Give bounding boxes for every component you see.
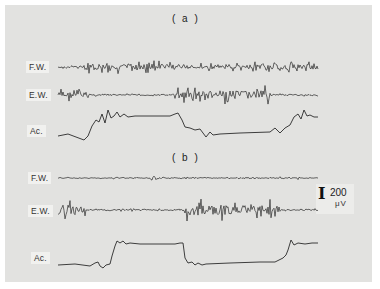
- trace-a-fw: [58, 61, 318, 74]
- trace-b-fw: [58, 176, 318, 180]
- trace-b-ac: [58, 240, 318, 268]
- trace-a-ac: [58, 110, 318, 140]
- trace-a-ew: [58, 86, 318, 105]
- traces-plot: [0, 0, 380, 289]
- trace-b-ew: [58, 199, 318, 221]
